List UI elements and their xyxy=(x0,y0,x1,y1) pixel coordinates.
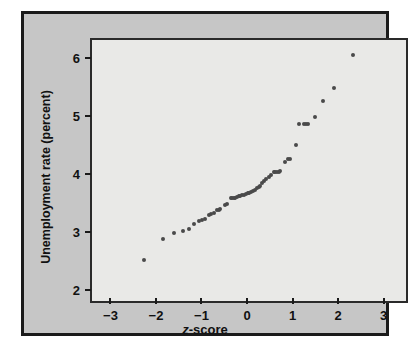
x-tick-mark xyxy=(337,298,339,304)
data-point xyxy=(332,86,336,90)
y-tick-label: 4 xyxy=(58,168,80,181)
x-tick-label: −2 xyxy=(141,309,171,322)
x-tick-label: −3 xyxy=(95,309,125,322)
data-point xyxy=(297,122,301,126)
x-axis-title-suffix: -score xyxy=(189,322,228,337)
data-point xyxy=(313,115,317,119)
y-tick-label: 3 xyxy=(58,226,80,239)
x-tick-label: 1 xyxy=(278,309,308,322)
y-tick-mark xyxy=(85,289,91,291)
scatter-points-layer xyxy=(92,40,406,301)
data-point xyxy=(278,169,282,173)
y-tick-label: 5 xyxy=(58,110,80,123)
data-point xyxy=(142,258,146,262)
plot-area xyxy=(90,38,408,303)
y-tick-label: 6 xyxy=(58,52,80,65)
figure-container: 23456 −3−2−10123 Unemployment rate (perc… xyxy=(0,0,410,350)
x-tick-mark xyxy=(246,298,248,304)
data-point xyxy=(192,222,196,226)
x-tick-label: −1 xyxy=(186,309,216,322)
y-tick-mark xyxy=(85,115,91,117)
x-tick-mark xyxy=(383,298,385,304)
y-tick-mark xyxy=(85,231,91,233)
chart-panel: 23456 −3−2−10123 Unemployment rate (perc… xyxy=(21,11,389,336)
data-point xyxy=(288,157,292,161)
y-axis-title: Unemployment rate (percent) xyxy=(39,90,53,264)
data-point xyxy=(225,202,229,206)
data-point xyxy=(218,207,222,211)
x-tick-label: 0 xyxy=(232,309,262,322)
data-point xyxy=(351,53,355,57)
x-tick-mark xyxy=(200,298,202,304)
y-tick-mark xyxy=(85,57,91,59)
data-point xyxy=(203,217,207,221)
x-tick-mark xyxy=(109,298,111,304)
y-tick-mark xyxy=(85,173,91,175)
data-point xyxy=(321,99,325,103)
x-tick-mark xyxy=(155,298,157,304)
x-tick-label: 3 xyxy=(369,309,399,322)
x-axis-title: z-score xyxy=(24,322,386,337)
data-point xyxy=(294,143,298,147)
data-point xyxy=(306,122,310,126)
x-tick-label: 2 xyxy=(323,309,353,322)
data-point xyxy=(187,227,191,231)
x-tick-mark xyxy=(292,298,294,304)
data-point xyxy=(181,229,185,233)
data-point xyxy=(172,231,176,235)
data-point xyxy=(161,237,165,241)
y-tick-label: 2 xyxy=(58,284,80,297)
